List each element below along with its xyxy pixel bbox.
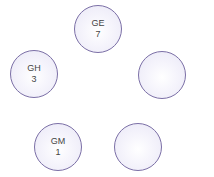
node-empty-bottom-right[interactable] [114, 123, 162, 171]
node-label: GM [51, 136, 66, 147]
node-ge[interactable]: GE 7 [74, 5, 122, 53]
node-value: 3 [31, 74, 36, 85]
node-value: 1 [55, 147, 60, 158]
node-value: 7 [95, 29, 100, 40]
node-label: GH [27, 63, 41, 74]
node-label: GE [91, 18, 104, 29]
node-gh[interactable]: GH 3 [10, 50, 58, 98]
node-empty-right[interactable] [138, 51, 186, 99]
node-gm[interactable]: GM 1 [34, 123, 82, 171]
